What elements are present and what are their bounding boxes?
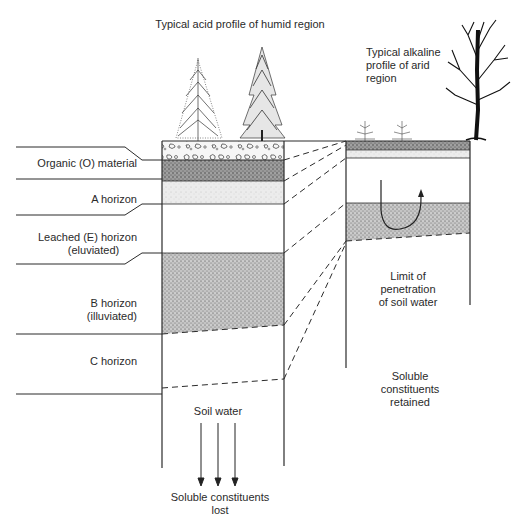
arid-profile-title: Typical alkaline profile of arid region: [366, 46, 456, 85]
conifer-tree-icon: [240, 47, 285, 141]
a-horizon-layer: [162, 181, 284, 204]
deciduous-tree-icon: [176, 58, 222, 141]
horizon-label-a: A horizon: [10, 193, 137, 206]
lost-note: Soluble constituents lost: [160, 491, 280, 517]
b-horizon-layer: [162, 253, 284, 334]
organic-litter-layer: [162, 141, 284, 160]
correlation-lines: [284, 141, 346, 379]
arid-profile-column: [346, 141, 470, 368]
humid-profile-title: Typical acid profile of humid region: [120, 18, 360, 31]
horizon-label-o: Organic (O) material: [10, 157, 137, 170]
soil-water-label: Soil water: [178, 405, 258, 418]
soil-water-arrows: [198, 423, 238, 486]
organic-material-layer: [162, 160, 284, 181]
shrub-icon: [355, 121, 412, 141]
horizon-label-e: Leached (E) horizon (eluviated): [10, 231, 137, 257]
horizon-label-b: B horizon (illuviated): [10, 297, 137, 323]
horizon-label-c: C horizon: [10, 355, 137, 368]
penetration-limit-note: Limit of penetration of soil water: [350, 270, 466, 309]
retained-note: Soluble constituents retained: [360, 370, 460, 409]
